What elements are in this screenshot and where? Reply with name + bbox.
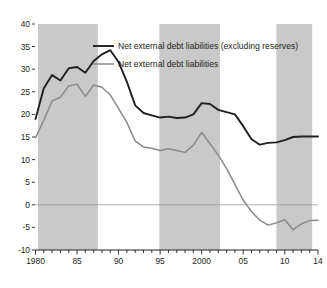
x-tick-label: 2000 (192, 256, 211, 266)
y-tick-label: 15 (21, 132, 31, 142)
y-tick-label: 20 (21, 109, 31, 119)
x-tick-label: 05 (239, 256, 249, 266)
x-tick-label: 95 (155, 256, 165, 266)
x-tick-label: 85 (72, 256, 82, 266)
y-tick-label: -10 (18, 245, 30, 255)
x-tick-label: 1980 (26, 256, 45, 266)
y-tick-label: 0 (25, 200, 30, 210)
x-tick-label: 90 (114, 256, 124, 266)
chart-figure: net external liabilities to assets and d… (0, 0, 327, 288)
legend-label-1: Net external debt liabilities (excluding… (118, 41, 298, 51)
y-tick-label: 25 (21, 87, 31, 97)
x-tick-label: 14 (313, 256, 323, 266)
chart-canvas: 4035302520151050-5-101980859095200005101… (0, 0, 327, 288)
shaded-band-2 (159, 24, 220, 250)
y-tick-label: -5 (23, 222, 31, 232)
y-tick-label: 10 (21, 155, 31, 165)
y-tick-label: 35 (21, 42, 31, 52)
y-tick-label: 30 (21, 64, 31, 74)
shaded-band-1 (38, 24, 98, 250)
legend-label-2: Net external debt liabilities (118, 59, 218, 69)
y-tick-label: 40 (21, 19, 31, 29)
y-tick-label: 5 (25, 177, 30, 187)
x-tick-label: 10 (280, 256, 290, 266)
